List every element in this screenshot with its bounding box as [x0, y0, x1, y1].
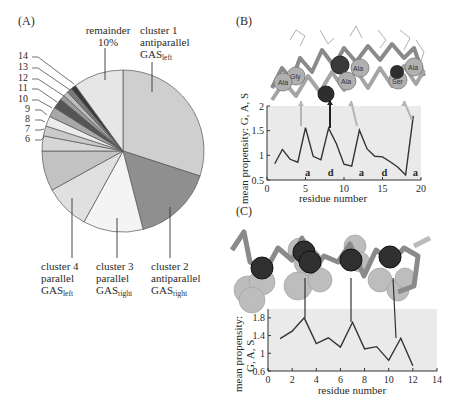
y-tick-label: 1.8 — [253, 312, 266, 323]
propensity-chart-c: 0.611.41.802468101214residue numbermean … — [0, 0, 463, 412]
y-tick-label: 1.4 — [253, 330, 266, 341]
x-axis-title: residue number — [318, 384, 386, 396]
x-tick-label: 0 — [266, 374, 271, 385]
y-axis-title-line1: mean propensity: — [232, 316, 244, 392]
y-axis-title-line2: G, A, S — [244, 340, 256, 372]
x-tick-label: 14 — [432, 374, 442, 385]
y-tick-label: 1 — [260, 348, 265, 359]
x-tick-label: 2 — [290, 374, 295, 385]
x-tick-label: 12 — [408, 374, 418, 385]
